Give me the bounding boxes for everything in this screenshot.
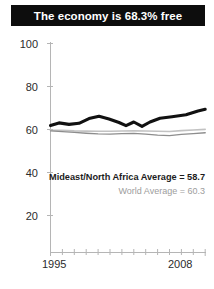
plot-area	[0, 0, 214, 289]
annotation-world-average: World Average = 60.3	[119, 186, 205, 196]
series-world-average	[51, 129, 206, 131]
annotation-mideast-north-africa-average: Mideast/North Africa Average = 58.7	[49, 172, 205, 182]
chart-container: The economy is 68.3% free 100 80 60 40 2…	[0, 0, 214, 289]
chart-svg	[0, 0, 214, 289]
series-country-score	[51, 109, 206, 126]
